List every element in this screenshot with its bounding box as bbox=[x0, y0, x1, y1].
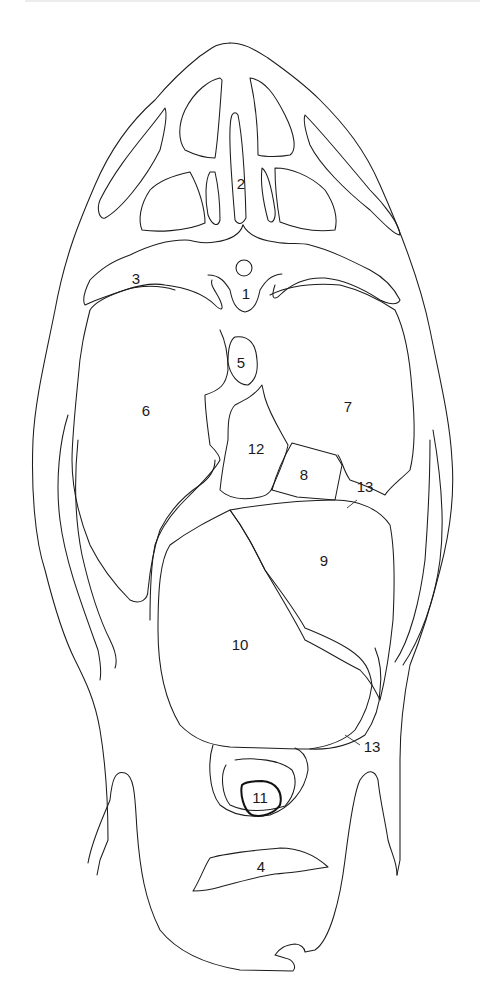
label-10: 10 bbox=[232, 637, 249, 652]
right-lung-7 bbox=[270, 284, 414, 495]
label-5: 5 bbox=[237, 355, 245, 370]
label-1: 1 bbox=[242, 286, 250, 301]
label-8: 8 bbox=[300, 467, 308, 482]
right-upper-sinus bbox=[250, 78, 294, 157]
label-11: 11 bbox=[252, 790, 268, 805]
label-9: 9 bbox=[320, 553, 328, 568]
cranial-base-bone-right bbox=[243, 225, 400, 304]
nasal-septum bbox=[230, 113, 246, 224]
left-middle-sinus bbox=[140, 172, 205, 231]
outer-body-outline-right bbox=[230, 43, 453, 875]
label-2: 2 bbox=[237, 176, 245, 191]
right-nasal-slit bbox=[261, 168, 275, 222]
label-13-upper: 13 bbox=[357, 479, 374, 494]
right-lateral-sinus bbox=[304, 115, 400, 235]
pericardium-13 bbox=[310, 648, 381, 749]
left-upper-sinus bbox=[180, 78, 222, 158]
label-7: 7 bbox=[344, 399, 352, 414]
right-ribcage-inner bbox=[395, 440, 430, 662]
label-13-lower: 13 bbox=[364, 739, 381, 754]
right-middle-sinus bbox=[275, 168, 336, 231]
label-4: 4 bbox=[257, 859, 265, 874]
left-ribcage-band bbox=[58, 415, 101, 680]
left-mediastinal-border bbox=[150, 330, 228, 620]
label-6: 6 bbox=[142, 403, 150, 418]
anatomical-cross-section-drawing bbox=[0, 0, 480, 988]
left-ribcage-inner bbox=[76, 440, 117, 668]
left-lung-6 bbox=[72, 286, 215, 602]
label-3: 3 bbox=[132, 271, 140, 286]
left-nasal-slit bbox=[206, 172, 220, 225]
spinal-canal bbox=[236, 260, 252, 276]
structure-10 bbox=[158, 510, 372, 749]
left-lateral-sinus bbox=[98, 108, 166, 218]
structure-9 bbox=[230, 500, 394, 700]
outer-body-outline bbox=[33, 43, 231, 875]
label-12: 12 bbox=[248, 441, 265, 456]
